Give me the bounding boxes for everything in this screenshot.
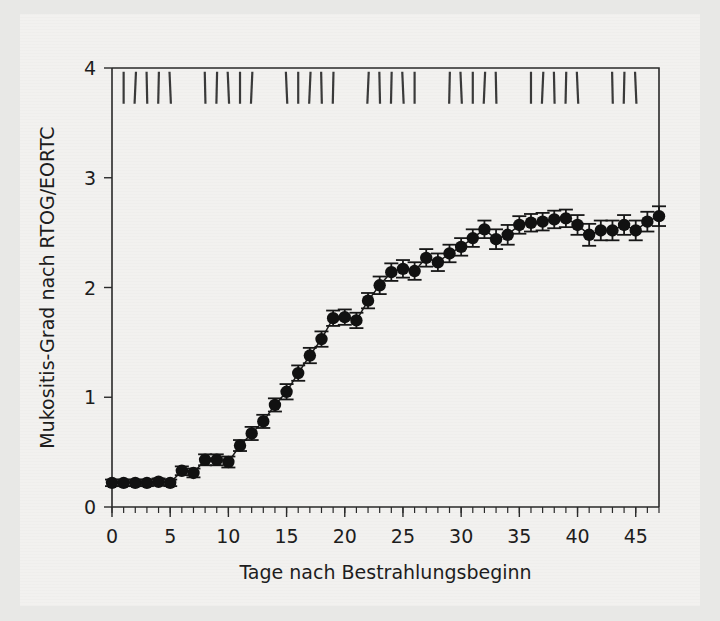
radiation-fraction-mark	[554, 72, 555, 104]
radiation-fraction-mark	[484, 72, 485, 104]
data-point	[350, 314, 362, 326]
x-axis-tick-label: 45	[624, 525, 648, 547]
radiation-fraction-mark	[135, 72, 136, 104]
data-point	[339, 311, 351, 323]
radiation-fraction-mark	[286, 72, 287, 104]
data-point	[513, 219, 525, 231]
x-axis-tick-label: 15	[274, 525, 298, 547]
x-axis-tick-label: 30	[449, 525, 473, 547]
x-axis-tick-label: 0	[106, 525, 118, 547]
data-point	[141, 477, 153, 489]
radiation-fraction-mark	[496, 72, 497, 104]
y-axis-tick-label: 3	[84, 167, 96, 189]
radiation-fraction-mark	[402, 72, 403, 104]
data-point	[560, 212, 572, 224]
data-point	[176, 465, 188, 477]
radiation-fraction-mark	[635, 72, 636, 104]
radiation-fraction-mark	[147, 72, 148, 104]
data-point	[152, 476, 164, 488]
data-point	[211, 454, 223, 466]
data-point	[199, 454, 211, 466]
x-axis-tick-label: 5	[164, 525, 176, 547]
data-point	[222, 456, 234, 468]
data-point	[245, 427, 257, 439]
y-axis-tick-label: 4	[84, 57, 96, 79]
data-point	[490, 233, 502, 245]
y-axis-title: Mukositis-Grad nach RTOG/EORTC	[36, 126, 58, 448]
data-point	[373, 279, 385, 291]
data-point	[129, 477, 141, 489]
data-point	[467, 232, 479, 244]
data-point	[117, 477, 129, 489]
radiation-fraction-mark	[542, 72, 543, 104]
data-point	[362, 294, 374, 306]
y-axis-tick-label: 2	[84, 277, 96, 299]
data-point	[595, 224, 607, 236]
data-point	[106, 477, 118, 489]
data-point	[502, 229, 514, 241]
radiation-fraction-mark	[367, 72, 368, 104]
radiation-fraction-mark	[321, 72, 322, 104]
data-point	[548, 213, 560, 225]
x-axis-tick-label: 35	[507, 525, 531, 547]
data-point	[536, 215, 548, 227]
data-point	[420, 252, 432, 264]
data-point	[385, 266, 397, 278]
radiation-fraction-mark	[449, 72, 450, 104]
data-point	[641, 215, 653, 227]
x-axis-tick-label: 10	[216, 525, 240, 547]
data-point	[653, 210, 665, 222]
data-point	[432, 256, 444, 268]
data-point	[304, 349, 316, 361]
x-axis-title: Tage nach Bestrahlungsbeginn	[238, 561, 531, 583]
data-point	[571, 219, 583, 231]
radiation-fraction-mark	[566, 72, 567, 104]
radiation-fraction-mark	[612, 72, 613, 104]
radiation-fraction-mark	[333, 72, 334, 104]
data-point	[630, 224, 642, 236]
x-axis-tick-label: 20	[333, 525, 357, 547]
radiation-fraction-mark	[169, 72, 170, 104]
radiation-fraction-mark	[158, 72, 159, 104]
radiation-fraction-mark	[251, 72, 252, 104]
data-point	[618, 219, 630, 231]
data-point	[525, 217, 537, 229]
data-point	[269, 399, 281, 411]
x-axis-tick-label: 40	[565, 525, 589, 547]
data-point	[606, 224, 618, 236]
radiation-fraction-mark	[391, 72, 392, 104]
radiation-fraction-mark	[228, 72, 229, 104]
radiation-fraction-mark	[379, 72, 380, 104]
data-point	[455, 241, 467, 253]
plot-frame	[112, 68, 659, 507]
data-point	[327, 312, 339, 324]
radiation-fraction-mark	[460, 72, 461, 104]
y-axis-tick-label: 1	[84, 386, 96, 408]
data-point	[315, 333, 327, 345]
axis-lines	[112, 68, 659, 507]
data-point	[234, 439, 246, 451]
data-point	[280, 386, 292, 398]
radiation-fraction-mark	[624, 72, 625, 104]
radiation-fraction-mark	[577, 72, 578, 104]
data-point	[583, 229, 595, 241]
data-point	[397, 263, 409, 275]
figure-panel: 01234051015202530354045Tage nach Bestrah…	[20, 14, 700, 606]
mucositis-scatter-chart: 01234051015202530354045Tage nach Bestrah…	[20, 14, 700, 606]
x-axis-tick-label: 25	[391, 525, 415, 547]
series-connector-line	[112, 216, 659, 483]
data-point	[257, 415, 269, 427]
radiation-fraction-mark	[309, 72, 310, 104]
data-point	[408, 265, 420, 277]
data-point	[443, 247, 455, 259]
data-point	[292, 367, 304, 379]
radiation-fraction-mark	[205, 72, 206, 104]
data-point	[187, 467, 199, 479]
radiation-fraction-mark	[216, 72, 217, 104]
data-point	[164, 477, 176, 489]
data-point	[478, 223, 490, 235]
y-axis-tick-label: 0	[84, 496, 96, 518]
